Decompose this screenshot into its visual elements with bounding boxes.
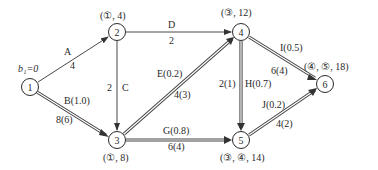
edge-J-value: 4(2) — [276, 118, 293, 130]
edge-G-value: 6(4) — [168, 141, 185, 153]
node-1-label: 1 — [28, 82, 33, 93]
node-4-annotation: (③, 12) — [221, 7, 252, 19]
start-label: b₁=0 — [18, 63, 38, 74]
edge-B-value: 8(6) — [56, 114, 73, 126]
edge-H: 2(1) H(0.7) — [219, 41, 271, 131]
node-3-label: 3 — [115, 135, 120, 146]
network-diagram: A 4 B(1.0) 8(6) 2 C D 2 E(0.2) 4(3) G(0.… — [0, 0, 378, 170]
edge-H-name: H(0.7) — [245, 78, 271, 90]
edge-C-name: C — [122, 82, 129, 93]
node-2: 2 (①, 4) — [100, 10, 126, 41]
node-3-annotation: (①, 8) — [103, 152, 129, 164]
edge-J: J(0.2) 4(2) — [249, 88, 317, 135]
node-5-annotation: (③, ④, 14) — [220, 152, 265, 164]
node-6-label: 6 — [323, 79, 328, 90]
node-5-label: 5 — [239, 135, 244, 146]
edge-D-name: D — [168, 19, 175, 30]
edge-E-value: 4(3) — [174, 89, 191, 101]
edge-G-name: G(0.8) — [163, 125, 189, 137]
node-4: 4 (③, 12) — [221, 7, 252, 41]
edge-G: G(0.8) 6(4) — [126, 125, 232, 153]
edge-A-name: A — [64, 46, 72, 57]
edge-I: I(0.5) 6(4) — [249, 37, 317, 80]
edge-E-name: E(0.2) — [157, 68, 182, 80]
edge-C-value: 2 — [107, 82, 112, 93]
edge-H-value: 2(1) — [219, 78, 236, 90]
edge-I-value: 6(4) — [271, 65, 288, 77]
edge-E: E(0.2) 4(3) — [124, 37, 234, 134]
edge-A: A 4 — [38, 37, 108, 82]
edge-D-value: 2 — [169, 35, 174, 46]
node-1: 1 — [22, 79, 39, 96]
edge-A-value: 4 — [70, 60, 75, 71]
node-2-annotation: (①, 4) — [100, 10, 126, 22]
edge-B: B(1.0) 8(6) — [37, 92, 109, 137]
node-4-label: 4 — [239, 27, 244, 38]
edge-D: D 2 — [126, 19, 231, 46]
node-5: 5 (③, ④, 14) — [220, 132, 265, 165]
node-2-label: 2 — [115, 27, 120, 38]
edge-B-name: B(1.0) — [64, 95, 90, 107]
edge-J-name: J(0.2) — [262, 99, 285, 111]
edge-C: 2 C — [107, 41, 129, 130]
node-6-annotation: (④, ⑤, 18) — [304, 61, 349, 73]
edge-I-name: I(0.5) — [280, 42, 303, 54]
